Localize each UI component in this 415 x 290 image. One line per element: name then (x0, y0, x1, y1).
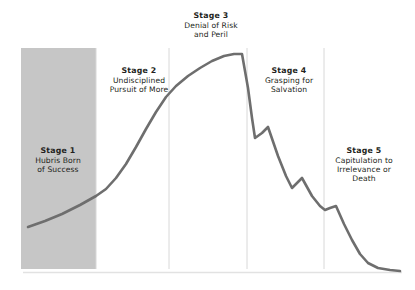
stage-5-description: Capitulation to Irrelevance or Death (320, 157, 408, 184)
stage-2-label: Stage 2 Undisciplined Pursuit of More (97, 66, 181, 95)
decline-curve-chart (0, 0, 415, 290)
stage-1-description: Hubris Born of Success (16, 157, 100, 175)
five-stages-of-decline-figure: Stage 1 Hubris Born of Success Stage 2 U… (0, 0, 415, 290)
stage-2-description: Undisciplined Pursuit of More (97, 77, 181, 95)
stage-4-label: Stage 4 Grasping for Salvation (248, 66, 330, 95)
stage-3-description: Denial of Risk and Peril (167, 22, 255, 40)
stage-2-title: Stage 2 (97, 66, 181, 75)
stage-3-label: Stage 3 Denial of Risk and Peril (167, 11, 255, 40)
stage-4-description: Grasping for Salvation (248, 77, 330, 95)
stage-5-title: Stage 5 (320, 146, 408, 155)
stage-5-label: Stage 5 Capitulation to Irrelevance or D… (320, 146, 408, 184)
stage-3-title: Stage 3 (167, 11, 255, 20)
stage-1-title: Stage 1 (16, 146, 100, 155)
stage-1-label: Stage 1 Hubris Born of Success (16, 146, 100, 175)
stage-4-title: Stage 4 (248, 66, 330, 75)
